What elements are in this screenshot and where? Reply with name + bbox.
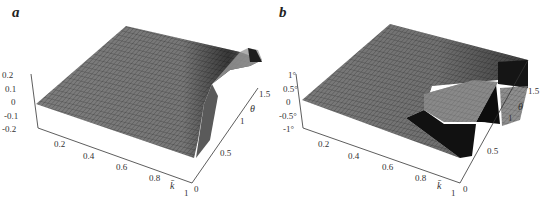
y-tick-a-3: 1.5 [259, 89, 271, 99]
y-tick-b-2: 1 [508, 113, 513, 123]
surface-plot-b: 1° 0.5° 0 -0.5° -1° 0.2 0.4 0.6 0.8 k̄ 1… [276, 0, 552, 204]
z-tick-a-1: 0.1 [5, 84, 16, 94]
z-tick-b-4: -1° [283, 124, 294, 134]
x-tick-a-3: 0.8 [149, 173, 161, 183]
z-tick-a-2: 0 [11, 97, 16, 107]
x-tick-b-1: 0.4 [348, 151, 360, 161]
x-axis-label-b: k̄ [437, 180, 442, 191]
y-tick-a-1: 0.5 [220, 148, 232, 158]
x-tick-a-0: 0.2 [54, 139, 65, 149]
panel-b: b 1° 0.5° 0 [276, 0, 552, 204]
x-tick-b-0: 0.2 [318, 139, 329, 149]
z-tick-b-0: 1° [288, 70, 297, 80]
y-axis-label-b: θ [518, 101, 523, 112]
x-tick-a-1: 0.4 [83, 151, 95, 161]
x-axis-label-a: k̄ [170, 180, 175, 191]
x-tick-a-4: 1 [184, 188, 189, 198]
z-tick-b-2: 0 [286, 97, 291, 107]
z-tick-a-0: 0.2 [2, 70, 13, 80]
x-tick-b-2: 0.6 [382, 162, 394, 172]
y-tick-b-1: 0.5 [487, 146, 499, 156]
z-tick-a-3: -0.1 [4, 111, 18, 121]
surface-plot-a: 0.2 0.1 0 -0.1 -0.2 0.2 0.4 0.6 0.8 k̄ 1… [0, 0, 276, 204]
z-tick-b-3: -0.5° [279, 111, 297, 121]
z-tick-a-4: -0.2 [2, 124, 16, 134]
y-tick-a-2: 1 [240, 116, 245, 126]
y-tick-b-3: 1.5 [528, 86, 540, 96]
x-tick-b-3: 0.8 [415, 173, 427, 183]
x-tick-b-4: 1 [451, 188, 456, 198]
panel-a: a 0.2 0.1 0 -0.1 -0.2 [0, 0, 276, 204]
z-tick-b-1: 0.5° [283, 84, 298, 94]
y-axis-label-a: θ [250, 103, 255, 114]
x-tick-a-2: 0.6 [116, 162, 128, 172]
y-tick-b-0: 0 [463, 184, 468, 194]
y-tick-a-0: 0 [194, 184, 199, 194]
